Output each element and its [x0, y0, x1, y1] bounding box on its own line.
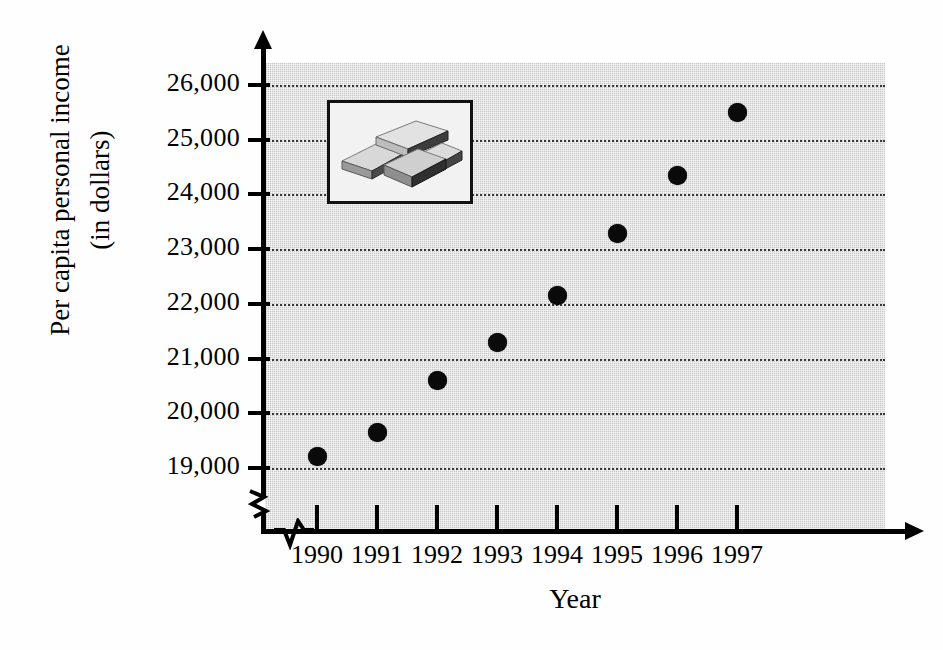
- y-axis-tick: [248, 138, 270, 142]
- y-axis-title-line-2: (in dollars): [80, 0, 120, 450]
- y-axis-tick: [248, 357, 270, 361]
- x-axis-tick: [435, 505, 439, 531]
- data-point: [608, 224, 627, 243]
- x-axis-tick: [315, 505, 319, 531]
- y-axis-tick: [248, 247, 270, 251]
- y-axis-break-icon: [248, 489, 282, 519]
- gridline: [265, 413, 885, 415]
- data-point: [488, 333, 507, 352]
- y-axis-tick: [248, 192, 270, 196]
- x-axis-tick: [615, 505, 619, 531]
- x-axis-tick: [375, 505, 379, 531]
- chart-figure: 26,00025,00024,00023,00022,00021,00020,0…: [0, 0, 943, 650]
- y-axis-title: Per capita personal income (in dollars): [40, 0, 120, 450]
- gridline: [265, 85, 885, 87]
- y-axis-tick: [248, 302, 270, 306]
- x-axis-tick: [495, 505, 499, 531]
- y-axis-tick: [248, 83, 270, 87]
- data-point: [668, 166, 687, 185]
- data-point: [368, 423, 387, 442]
- gridline: [265, 304, 885, 306]
- data-point: [548, 286, 567, 305]
- y-axis-line: [261, 44, 266, 496]
- x-axis-tick: [555, 505, 559, 531]
- y-axis-tick-label: 19,000: [60, 453, 240, 479]
- data-point: [308, 447, 327, 466]
- y-axis-title-line-1: Per capita personal income: [40, 0, 80, 450]
- x-axis-tick-label: 1997: [682, 540, 792, 570]
- y-axis-arrow-icon: [254, 30, 272, 49]
- gridline: [265, 468, 885, 470]
- x-axis-title: Year: [265, 583, 885, 615]
- data-point: [428, 371, 447, 390]
- gridline: [265, 359, 885, 361]
- gridline: [265, 249, 885, 251]
- data-point: [728, 103, 747, 122]
- x-axis-arrow-icon: [905, 522, 924, 540]
- y-axis-tick: [248, 411, 270, 415]
- money-stacks-inset: [327, 100, 473, 204]
- x-axis-tick: [675, 505, 679, 531]
- x-axis-tick: [735, 505, 739, 531]
- y-axis-tick: [248, 466, 270, 470]
- money-stacks-icon: [330, 103, 470, 201]
- x-axis-line: [261, 529, 911, 534]
